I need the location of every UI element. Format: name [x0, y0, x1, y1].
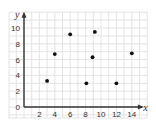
data-point	[115, 81, 119, 85]
data-point	[93, 30, 97, 34]
y-tick-label: 10	[11, 24, 20, 33]
grid-lines	[9, 12, 147, 118]
y-axis-arrow-icon	[22, 12, 27, 18]
data-point	[53, 52, 57, 56]
x-tick-label: 2	[37, 110, 42, 119]
data-points	[45, 30, 134, 85]
data-point	[68, 32, 72, 36]
origin-label: 0	[16, 103, 21, 112]
y-tick-label: 4	[16, 71, 21, 80]
axes	[22, 12, 144, 110]
y-tick-label: 2	[16, 87, 21, 96]
data-point	[45, 79, 49, 83]
y-tick-label: 8	[16, 40, 21, 49]
data-point	[91, 55, 95, 59]
y-tick-label: 6	[16, 56, 21, 65]
x-tick-label: 6	[68, 110, 73, 119]
x-tick-label: 10	[97, 110, 106, 119]
x-tick-label: 12	[112, 110, 121, 119]
x-tick-label: 8	[83, 110, 88, 119]
x-tick-label: 4	[53, 110, 58, 119]
scatter-plot: xy24681012142468100	[0, 0, 156, 128]
x-tick-label: 14	[127, 110, 136, 119]
data-point	[84, 81, 88, 85]
y-axis-label: y	[14, 9, 20, 20]
data-point	[130, 51, 134, 55]
x-axis-label: x	[142, 102, 148, 113]
